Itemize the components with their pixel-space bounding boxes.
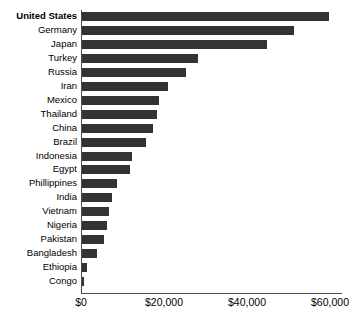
category-label: Germany	[38, 25, 77, 35]
bar	[82, 152, 132, 161]
category-label: Ethiopia	[43, 262, 77, 272]
bar-row	[81, 94, 342, 108]
bar-row	[81, 177, 342, 191]
category-label: Turkey	[48, 53, 77, 63]
category-label: Bangladesh	[27, 248, 77, 258]
bar-row	[81, 261, 342, 275]
bar-row	[81, 275, 342, 289]
bar	[82, 138, 146, 147]
x-tick-label: $0	[75, 296, 87, 308]
bar-row	[81, 150, 342, 164]
bar-rows	[81, 10, 342, 293]
bar-row	[81, 191, 342, 205]
bar-row	[81, 247, 342, 261]
bar	[82, 12, 329, 21]
category-label: Vietnam	[42, 206, 77, 216]
bar-chart: United StatesGermanyJapanTurkeyRussiaIra…	[0, 0, 361, 325]
bar-row	[81, 233, 342, 247]
bar	[82, 68, 186, 77]
bar-row	[81, 163, 342, 177]
bar-row	[81, 108, 342, 122]
bar	[82, 179, 117, 188]
bar-row	[81, 38, 342, 52]
category-label: Thailand	[41, 109, 77, 119]
category-label: Congo	[49, 276, 77, 286]
x-tick-label: $40,000	[228, 296, 266, 308]
category-label: Russia	[48, 67, 77, 77]
category-label: Pakistan	[41, 234, 77, 244]
bar-row	[81, 10, 342, 24]
bar	[82, 193, 112, 202]
bar	[82, 207, 109, 216]
x-axis-tick-labels: $0$20,000$40,000$60,000	[0, 296, 361, 316]
bar	[82, 96, 159, 105]
bar	[82, 235, 104, 244]
category-label: Brazil	[53, 137, 77, 147]
bar-row	[81, 219, 342, 233]
bar	[82, 26, 294, 35]
bar-row	[81, 24, 342, 38]
bar	[82, 110, 157, 119]
bar-row	[81, 52, 342, 66]
bar	[82, 221, 107, 230]
bar-row	[81, 205, 342, 219]
bar	[82, 40, 267, 49]
category-label: Mexico	[47, 95, 77, 105]
category-label: Japan	[51, 39, 77, 49]
bar	[82, 277, 84, 286]
bar	[82, 263, 87, 272]
category-label: Indonesia	[36, 151, 77, 161]
bar-row	[81, 66, 342, 80]
plot-area	[81, 10, 342, 293]
bar	[82, 82, 168, 91]
bar-row	[81, 80, 342, 94]
category-label: China	[52, 123, 77, 133]
category-label: Phillippines	[29, 178, 77, 188]
category-label: Iran	[61, 81, 77, 91]
bar	[82, 54, 198, 63]
bar-row	[81, 122, 342, 136]
bar	[82, 249, 97, 258]
category-label: Egypt	[53, 164, 77, 174]
category-label: United States	[16, 11, 77, 21]
bar	[82, 165, 130, 174]
x-tick-label: $20,000	[145, 296, 183, 308]
bar-row	[81, 136, 342, 150]
bar	[82, 124, 153, 133]
x-axis-line	[81, 293, 342, 294]
x-tick-label: $60,000	[311, 296, 349, 308]
category-label: India	[56, 192, 77, 202]
category-label: Nigeria	[47, 220, 77, 230]
